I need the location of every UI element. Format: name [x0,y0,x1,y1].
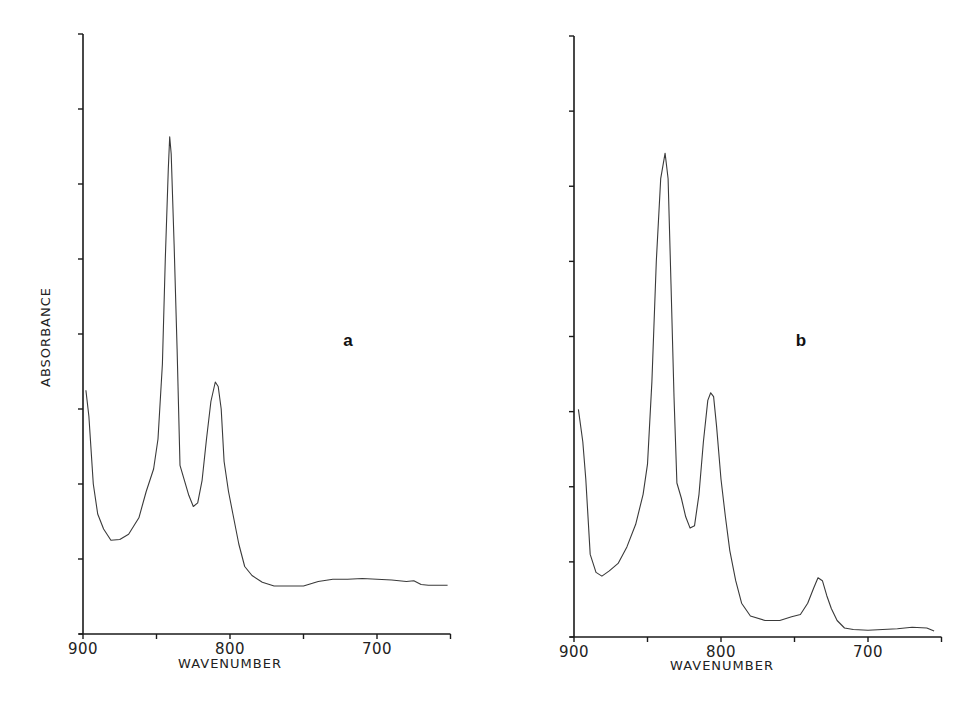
panel-b-x-axis-title: WAVENUMBER [670,658,774,673]
x-tick-label: 700 [362,640,392,658]
x-tick-label: 900 [559,643,589,661]
panel-a-x-axis-title: WAVENUMBER [178,656,282,671]
panel-b: 900800700 WAVENUMBER b [559,36,942,673]
x-tick-label: 700 [853,643,883,661]
panel-a-label: a [343,331,353,350]
panel-a-ticks [78,34,451,639]
panel-a: 900800700 WAVENUMBER a [68,34,451,671]
panel-b-label: b [796,331,806,350]
y-axis-title: ABSORBANCE [38,287,53,387]
panel-a-axes [79,34,451,634]
panel-b-axes [570,36,942,637]
panel-b-spectrum-line [578,153,934,631]
panel-a-spectrum-line [86,137,448,586]
figure: ABSORBANCE 900800700 WAVENUMBER a 900800… [0,0,975,703]
x-tick-label: 900 [68,640,98,658]
